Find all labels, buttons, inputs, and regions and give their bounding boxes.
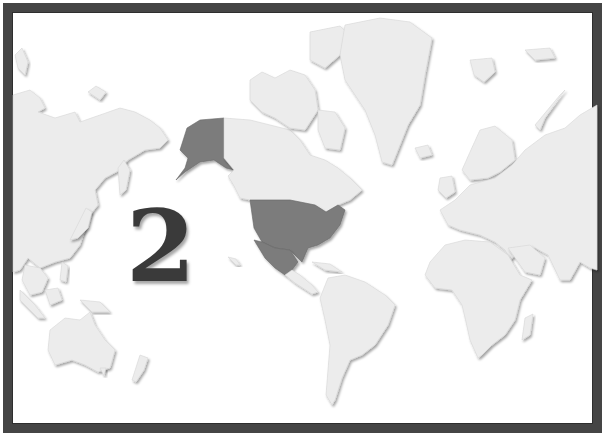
- borneo: [45, 288, 62, 305]
- novaya-zemlya: [535, 90, 565, 130]
- new-guinea: [80, 300, 110, 312]
- franz-josef-land: [525, 48, 555, 60]
- central-america: [285, 270, 318, 294]
- indochina: [22, 265, 48, 295]
- australia: [48, 312, 115, 372]
- baffin-island: [318, 110, 345, 150]
- greenland: [340, 18, 432, 165]
- madagascar: [522, 314, 533, 340]
- tasmania: [100, 368, 106, 376]
- iceland: [415, 145, 432, 158]
- new-zealand: [132, 355, 148, 382]
- novaya-zemlya-west: [15, 48, 28, 75]
- severnaya-zemlya: [88, 86, 106, 100]
- map-label-number: 2: [126, 196, 196, 296]
- canadian-arctic-islands: [250, 70, 318, 130]
- hawaii: [228, 257, 240, 265]
- philippines: [60, 262, 68, 282]
- british-isles: [438, 176, 455, 198]
- svalbard: [470, 58, 495, 82]
- cuba: [312, 262, 342, 272]
- south-america: [320, 275, 395, 405]
